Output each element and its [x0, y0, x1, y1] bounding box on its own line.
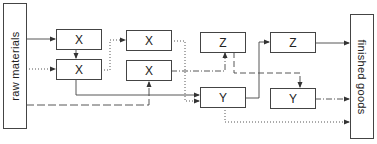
- node-label: X: [145, 34, 153, 48]
- edge-x4-z1: [171, 53, 225, 71]
- node-x2: X: [56, 59, 102, 80]
- edge-z1-y2: [234, 52, 300, 87]
- node-label: X: [75, 63, 83, 77]
- node-x4: X: [126, 60, 172, 81]
- raw-materials-box: raw materials: [3, 3, 27, 129]
- edge-y1-finished: [225, 107, 349, 122]
- node-label: Y: [289, 92, 297, 106]
- finished-goods-box: finished goods: [350, 14, 374, 139]
- edge-x2-y1: [76, 80, 199, 95]
- raw-materials-label: raw materials: [9, 31, 21, 100]
- node-label: X: [75, 33, 83, 47]
- edge-y1-z2: [245, 42, 269, 98]
- node-label: Z: [219, 36, 226, 50]
- node-z2: Z: [270, 32, 316, 53]
- node-label: Y: [219, 91, 227, 105]
- node-y2: Y: [270, 88, 316, 109]
- node-y1: Y: [200, 87, 246, 108]
- finished-goods-label: finished goods: [356, 39, 368, 114]
- node-x1: X: [56, 29, 102, 50]
- edge-raw-x4: [26, 82, 149, 105]
- edge-x2-x3: [101, 40, 125, 70]
- node-x3: X: [126, 30, 172, 51]
- node-label: Z: [289, 36, 296, 50]
- node-z1: Z: [200, 32, 246, 53]
- node-label: X: [145, 64, 153, 78]
